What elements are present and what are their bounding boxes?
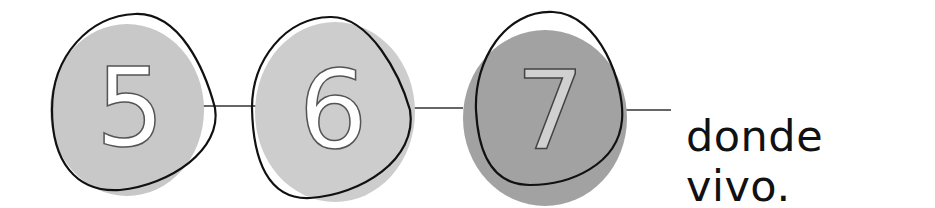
caption-text: donde vivo.: [686, 111, 935, 208]
step-6-bubble: 6: [252, 17, 415, 202]
step-6-number: 6: [299, 47, 368, 172]
step-5-number: 5: [96, 45, 165, 170]
step-5-bubble: 5: [50, 14, 216, 196]
step-7-bubble: 7: [463, 12, 627, 206]
step-7-number: 7: [516, 48, 585, 173]
